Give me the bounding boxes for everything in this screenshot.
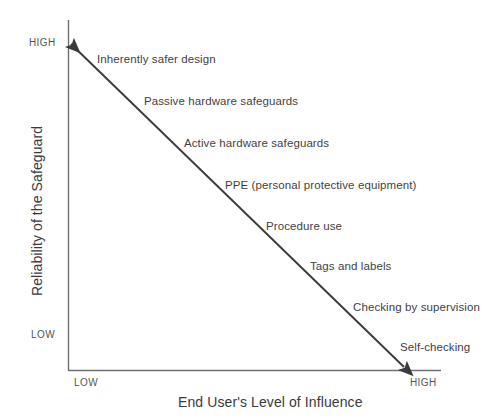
y-axis-tick-high: HIGH [29,38,56,48]
x-axis-title: End User's Level of Influence [178,395,363,409]
hierarchy-of-controls-diagram: Reliability of the Safeguard HIGH LOW LO… [0,0,490,420]
step-label-active-hardware-safeguards: Active hardware safeguards [184,138,329,150]
step-label-inherently-safer-design: Inherently safer design [97,54,216,66]
y-axis-tick-low: LOW [31,330,55,340]
step-label-checking-by-supervision: Checking by supervision [353,302,480,314]
step-label-self-checking: Self-checking [400,342,470,354]
diagram-canvas [0,0,490,420]
x-axis-tick-low: LOW [74,378,98,388]
y-axis-title: Reliability of the Safeguard [30,126,44,296]
step-label-tags-and-labels: Tags and labels [310,261,391,273]
diagonal-arrow [71,44,404,367]
step-label-ppe: PPE (personal protective equipment) [225,180,416,192]
step-label-procedure-use: Procedure use [266,221,342,233]
step-label-passive-hardware-safeguards: Passive hardware safeguards [144,96,298,108]
x-axis-tick-high: HIGH [410,378,437,388]
